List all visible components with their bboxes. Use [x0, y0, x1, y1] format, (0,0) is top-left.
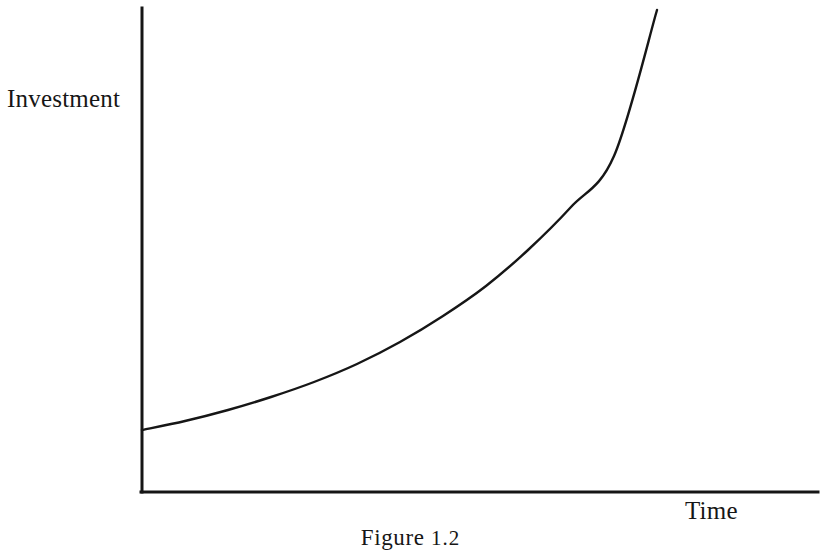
y-axis-label: Investment [7, 86, 120, 111]
plot-area [0, 0, 821, 554]
caption-prefix: Figure [361, 525, 425, 550]
exponential-growth-curve [142, 10, 657, 430]
x-axis-label: Time [685, 498, 738, 523]
figure-caption: Figure 1.2 [0, 526, 821, 549]
figure-container: Investment Time Figure 1.2 [0, 0, 821, 554]
caption-number: 1.2 [431, 526, 460, 550]
